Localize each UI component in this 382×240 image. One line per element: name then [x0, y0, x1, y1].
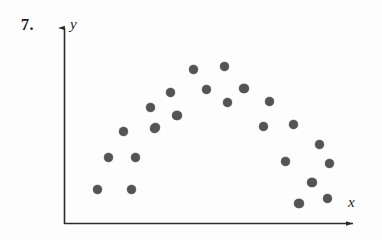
- data-point: [289, 120, 298, 129]
- data-point: [281, 157, 290, 166]
- data-point: [119, 127, 128, 136]
- data-point: [308, 178, 317, 187]
- scatter-plot-area: y x: [0, 0, 382, 240]
- data-point: [220, 62, 229, 71]
- data-point: [172, 111, 181, 120]
- data-point: [323, 194, 332, 203]
- figure-root: 7. y x: [0, 0, 382, 240]
- data-point: [127, 185, 136, 194]
- data-point: [265, 97, 274, 106]
- data-point: [93, 185, 102, 194]
- data-point: [151, 123, 160, 132]
- data-point: [189, 65, 198, 74]
- data-point: [104, 153, 113, 162]
- data-point: [223, 98, 232, 107]
- data-point: [146, 103, 155, 112]
- data-point: [202, 85, 211, 94]
- data-point: [131, 153, 140, 162]
- data-point: [239, 84, 248, 93]
- data-point: [294, 199, 303, 208]
- data-point: [166, 88, 175, 97]
- data-point: [315, 140, 324, 149]
- data-point: [259, 122, 268, 131]
- data-point-layer: [0, 0, 382, 240]
- data-point: [325, 159, 334, 168]
